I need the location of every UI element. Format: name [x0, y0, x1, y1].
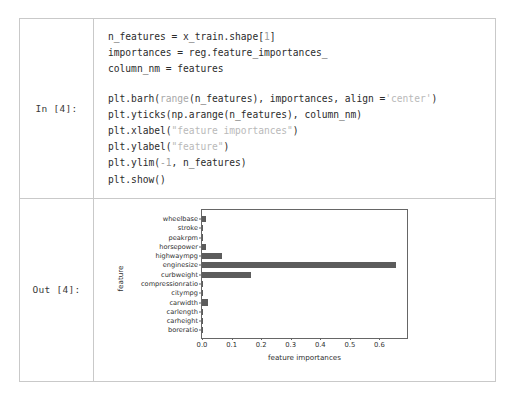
code-line: plt.show() [108, 172, 487, 188]
y-tick-mark [199, 321, 202, 322]
y-tick-mark [199, 302, 202, 303]
code-token: plt.xlabel( [108, 125, 172, 136]
code-token: ) [293, 125, 299, 136]
x-tick-label: 0.0 [197, 342, 208, 349]
code-line: plt.barh(range(n_features), importances,… [108, 91, 487, 107]
y-tick-label-highwaympg: highwaympg [155, 253, 198, 260]
y-tick-mark [199, 274, 202, 275]
code-line: plt.xlabel("feature importances") [108, 123, 487, 139]
x-tick-label: 0.2 [256, 342, 267, 349]
y-tick-mark [199, 228, 202, 229]
input-prompt-label: In [4]: [20, 19, 94, 198]
code-token: plt.ylabel( [108, 141, 172, 152]
bar-stroke [202, 225, 203, 231]
y-tick-mark [199, 256, 202, 257]
x-tick-label: 0.1 [226, 342, 237, 349]
code-line: plt.yticks(np.arange(n_features), column… [108, 107, 487, 123]
plot-axes-frame: boreratiocarheightcarlengthcarwidthcitym… [201, 209, 408, 339]
y-tick-label-horsepower: horsepower [159, 244, 198, 251]
code-token: importances = reg.feature_importances_ [108, 47, 328, 58]
bar-carwidth [202, 299, 208, 305]
y-tick-label-peakrpm: peakrpm [169, 234, 198, 241]
y-tick-label-enginesize: enginesize [163, 262, 198, 269]
code-editor[interactable]: n_features = x_train.shape[1]importances… [94, 19, 495, 198]
top-cropped-text-strip: ·· ·· · ·· ·· ··· ·· · · ·· [0, 0, 516, 14]
code-token: plt.show() [108, 174, 166, 185]
bar-enginesize [202, 262, 396, 268]
code-line: n_features = x_train.shape[1] [108, 29, 487, 45]
code-line: plt.ylabel("feature") [108, 139, 487, 155]
x-axis-label: feature importances [201, 353, 408, 362]
y-tick-label-carlength: carlength [167, 309, 198, 316]
input-cell-row: In [4]: n_features = x_train.shape[1]imp… [20, 19, 495, 198]
bar-curbweight [202, 272, 251, 278]
code-line: column_nm = features [108, 61, 487, 77]
y-tick-label-boreratio: boreratio [168, 327, 198, 334]
code-token: ) [431, 93, 437, 104]
output-prompt-label: Out [4]: [20, 199, 94, 381]
code-token: "feature" [172, 141, 224, 152]
y-tick-mark [199, 237, 202, 238]
x-tick-label: 0.5 [344, 342, 355, 349]
y-tick-mark [199, 283, 202, 284]
code-token: plt.ylim( [108, 157, 160, 168]
bar-series: boreratiocarheightcarlengthcarwidthcitym… [202, 210, 407, 338]
bar-wheelbase [202, 216, 206, 222]
bar-horsepower [202, 244, 206, 250]
y-tick-mark [199, 311, 202, 312]
code-blank-line [108, 78, 487, 91]
x-tick-label: 0.3 [285, 342, 296, 349]
y-tick-mark [199, 330, 202, 331]
code-token: 'center' [385, 93, 431, 104]
y-tick-label-compressionratio: compressionratio [141, 281, 198, 288]
cropped-header-text: ·· ·· · ·· ·· ··· ·· · · ·· [18, 0, 218, 3]
y-tick-mark [199, 218, 202, 219]
bar-peakrpm [202, 234, 203, 240]
y-tick-label-wheelbase: wheelbase [163, 216, 198, 223]
y-tick-mark [199, 265, 202, 266]
bar-citympg [202, 290, 203, 296]
matplotlib-figure: feature boreratiocarheightcarlengthcarwi… [122, 205, 430, 377]
code-line: plt.ylim(-1, n_features) [108, 155, 487, 171]
output-area: feature boreratiocarheightcarlengthcarwi… [94, 199, 495, 381]
code-token: plt.barh( [108, 93, 160, 104]
code-token: -1 [160, 157, 172, 168]
code-token: , n_features) [172, 157, 247, 168]
y-tick-label-carwidth: carwidth [169, 299, 198, 306]
y-tick-mark [199, 293, 202, 294]
code-token: ) [224, 141, 230, 152]
code-line: importances = reg.feature_importances_ [108, 45, 487, 61]
code-token: n_features = x_train.shape[ [108, 31, 264, 42]
y-axis-label: feature [116, 265, 125, 291]
x-tick-label: 0.6 [374, 342, 385, 349]
bar-boreratio [202, 327, 203, 333]
code-token: ] [270, 31, 276, 42]
bar-carlength [202, 309, 203, 315]
code-token: range [160, 93, 189, 104]
code-token: plt.yticks(np.arange(n_features), column… [108, 109, 362, 120]
bar-carheight [202, 318, 203, 324]
y-tick-label-citympg: citympg [171, 290, 198, 297]
y-tick-mark [199, 246, 202, 247]
code-token: "feature importances" [172, 125, 293, 136]
y-tick-label-carheight: carheight [167, 318, 198, 325]
x-tick-label: 0.4 [315, 342, 326, 349]
output-cell-row: Out [4]: feature boreratiocarheightcarle… [20, 198, 495, 381]
code-token: (n_features), importances, align = [189, 93, 385, 104]
y-tick-label-curbweight: curbweight [161, 271, 198, 278]
code-token: column_nm = features [108, 63, 224, 74]
bar-compressionratio [202, 281, 203, 287]
notebook-cell-table: In [4]: n_features = x_train.shape[1]imp… [19, 18, 496, 382]
bar-highwaympg [202, 253, 222, 259]
y-tick-label-stroke: stroke [178, 225, 198, 232]
